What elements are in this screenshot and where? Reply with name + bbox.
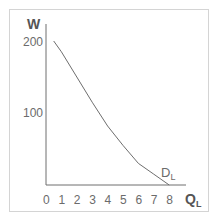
x-tick-7: 7 (151, 194, 158, 206)
x-tick-3: 3 (89, 194, 96, 206)
curve-label-dl: DL (161, 167, 175, 183)
x-axis-title-main: Q (185, 191, 196, 207)
y-axis-title: W (27, 17, 40, 31)
curve-label-sub: L (170, 172, 175, 182)
x-tick-4: 4 (105, 194, 112, 206)
x-tick-2: 2 (74, 194, 81, 206)
y-tick-200: 200 (23, 36, 43, 48)
x-axis-title-sub: L (196, 199, 202, 209)
x-tick-5: 5 (120, 194, 127, 206)
x-tick-0: 0 (43, 194, 50, 206)
x-tick-6: 6 (135, 194, 142, 206)
x-axis-title: QL (185, 192, 201, 211)
x-tick-1: 1 (58, 194, 65, 206)
demand-curve (54, 41, 170, 185)
x-tick-8: 8 (166, 194, 173, 206)
curve-label-main: D (161, 165, 170, 180)
y-tick-100: 100 (23, 107, 43, 119)
